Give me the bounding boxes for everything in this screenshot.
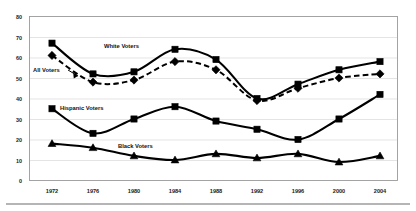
y-tick-70: 70 xyxy=(16,35,22,41)
data-point-marker-square xyxy=(377,59,383,65)
data-point-marker-square xyxy=(336,116,342,122)
x-tick-1992: 1992 xyxy=(251,188,263,194)
x-tick-1980: 1980 xyxy=(128,188,140,194)
data-point-marker-square xyxy=(213,118,219,124)
data-point-marker-square xyxy=(131,69,137,75)
annotation-white-voters: White Voters xyxy=(104,43,139,49)
x-tick-1988: 1988 xyxy=(210,188,222,194)
data-point-marker-square xyxy=(172,46,178,52)
x-tick-2004: 2004 xyxy=(374,188,387,194)
data-point-marker-square xyxy=(49,106,55,112)
x-tick-1972: 1972 xyxy=(46,188,58,194)
y-tick-40: 40 xyxy=(16,96,22,102)
x-axis-tick-labels: 1972 1976 1980 1984 1988 1992 1996 2000 … xyxy=(46,188,387,194)
x-tick-1976: 1976 xyxy=(87,188,99,194)
y-tick-50: 50 xyxy=(16,76,22,82)
voter-turnout-line-chart: 80 70 60 50 40 30 20 10 0 1972 1976 1980… xyxy=(0,0,416,211)
x-tick-2000: 2000 xyxy=(333,188,345,194)
data-point-marker-square xyxy=(377,91,383,97)
data-point-marker-square xyxy=(254,126,260,132)
chart-canvas: 80 70 60 50 40 30 20 10 0 1972 1976 1980… xyxy=(0,0,416,211)
annotation-black-voters: Black Voters xyxy=(118,143,153,149)
y-tick-10: 10 xyxy=(16,158,22,164)
data-point-marker-square xyxy=(49,40,55,46)
data-point-marker-square xyxy=(336,67,342,73)
annotation-hispanic-voters: Hispanic Voters xyxy=(60,105,103,111)
x-tick-1984: 1984 xyxy=(169,188,182,194)
data-point-marker-square xyxy=(295,136,301,142)
data-point-marker-square xyxy=(90,130,96,136)
annotation-all-voters: All Voters xyxy=(33,67,60,73)
y-tick-60: 60 xyxy=(16,55,22,61)
y-tick-80: 80 xyxy=(16,14,22,20)
data-point-marker-square xyxy=(213,56,219,62)
y-tick-0: 0 xyxy=(19,178,22,184)
y-tick-20: 20 xyxy=(16,137,22,143)
y-tick-30: 30 xyxy=(16,117,22,123)
data-point-marker-square xyxy=(90,71,96,77)
x-tick-1996: 1996 xyxy=(292,188,304,194)
data-point-marker-square xyxy=(172,104,178,110)
y-axis-tick-labels: 80 70 60 50 40 30 20 10 0 xyxy=(16,14,22,184)
data-point-marker-square xyxy=(131,116,137,122)
